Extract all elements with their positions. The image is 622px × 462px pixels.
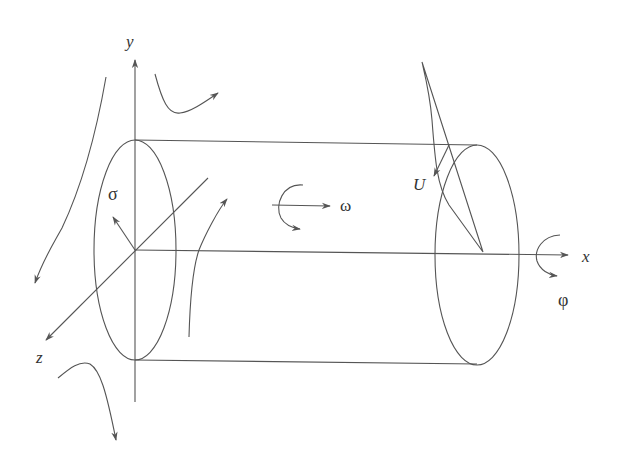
omega-rotation-arrow [279, 185, 303, 229]
flow-line-middle [189, 199, 227, 337]
cylinder-bottom-edge [135, 360, 477, 364]
cylinder-right-end [435, 145, 519, 365]
phi-rotation-arrow [536, 235, 560, 276]
flow-line-upper [155, 74, 218, 113]
cylinder-top-edge [135, 140, 477, 145]
z-axis [46, 178, 208, 340]
sigma-arrow [113, 217, 135, 250]
flow-line-upper-left [35, 77, 106, 283]
omega-label: ω [340, 196, 351, 215]
y-axis-label: y [124, 32, 134, 51]
phi-label: φ [558, 290, 568, 310]
x-axis-label: x [581, 247, 590, 266]
sigma-label: σ [108, 184, 118, 204]
flow-line-lower-left [58, 363, 116, 440]
cylinder-flow-diagram: y x z σ ω φ U [0, 0, 622, 462]
z-axis-label: z [35, 348, 43, 367]
x-axis [135, 250, 568, 255]
omega-axis-arrow [272, 205, 330, 206]
velocity-label: U [413, 175, 427, 194]
velocity-profile-curve [422, 62, 483, 252]
